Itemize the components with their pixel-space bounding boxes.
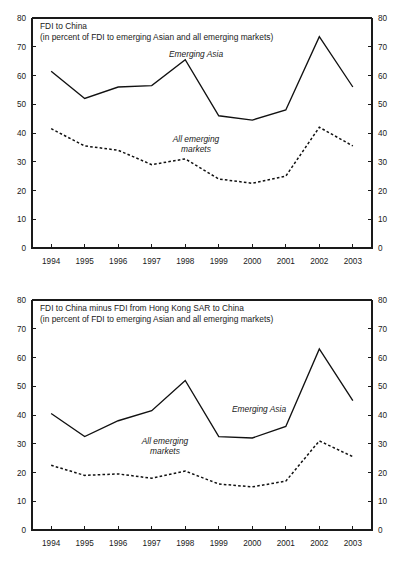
x-tick-label: 1995 bbox=[76, 539, 95, 548]
y-tick-label-right: 70 bbox=[378, 43, 388, 52]
y-axis-left-ticks-top bbox=[32, 47, 36, 220]
series-annotation-all-emerging-markets-top-line2: markets bbox=[181, 144, 212, 154]
chart-title-bottom: FDI to China minus FDI from Hong Kong SA… bbox=[40, 303, 244, 313]
y-tick-label-right: 10 bbox=[378, 497, 388, 506]
x-tick-label: 1994 bbox=[42, 539, 61, 548]
y-tick-label-left: 0 bbox=[21, 526, 26, 535]
x-tick-label: 1996 bbox=[109, 539, 128, 548]
x-tick-label: 1998 bbox=[176, 539, 195, 548]
y-axis-right-ticks-bottom bbox=[368, 329, 372, 502]
x-tick-label: 1999 bbox=[210, 539, 229, 548]
x-tick-label: 1998 bbox=[176, 257, 195, 266]
series-line-emerging-asia-bottom bbox=[51, 349, 353, 438]
x-tick-label: 2001 bbox=[277, 539, 296, 548]
y-tick-label-left: 0 bbox=[21, 244, 26, 253]
chart-panel-fdi-to-china-minus-hk: 01020304050607080 01020304050607080 1994… bbox=[0, 284, 407, 568]
x-axis-ticks-bottom bbox=[51, 526, 353, 530]
x-tick-label: 2000 bbox=[243, 539, 262, 548]
y-tick-label-left: 50 bbox=[17, 100, 27, 109]
x-tick-label: 1997 bbox=[143, 539, 162, 548]
y-tick-label-left: 20 bbox=[17, 469, 27, 478]
y-axis-left-labels-top: 01020304050607080 bbox=[17, 14, 27, 253]
y-tick-label-left: 80 bbox=[17, 296, 27, 305]
series-line-all-emerging-markets-bottom bbox=[51, 441, 353, 487]
y-tick-label-right: 50 bbox=[378, 382, 388, 391]
y-tick-label-right: 70 bbox=[378, 325, 388, 334]
y-tick-label-left: 40 bbox=[17, 129, 27, 138]
plot-frame-bottom bbox=[32, 300, 372, 530]
series-annotation-all-emerging-markets-top-line1: All emerging bbox=[172, 134, 220, 144]
y-tick-label-right: 40 bbox=[378, 129, 388, 138]
x-tick-label: 1994 bbox=[42, 257, 61, 266]
y-tick-label-left: 10 bbox=[17, 497, 27, 506]
y-tick-label-left: 80 bbox=[17, 14, 27, 23]
y-tick-label-right: 20 bbox=[378, 469, 388, 478]
y-axis-left-ticks-bottom bbox=[32, 329, 36, 502]
y-axis-right-labels-bottom: 01020304050607080 bbox=[378, 296, 388, 535]
y-tick-label-left: 10 bbox=[17, 215, 27, 224]
y-tick-label-right: 20 bbox=[378, 187, 388, 196]
x-axis-labels-bottom: 1994199519961997199819992000200120022003 bbox=[42, 539, 362, 548]
y-tick-label-left: 60 bbox=[17, 72, 27, 81]
chart-subtitle-top: (in percent of FDI to emerging Asian and… bbox=[40, 32, 273, 42]
x-tick-label: 2002 bbox=[310, 257, 329, 266]
y-tick-label-right: 0 bbox=[378, 244, 383, 253]
y-tick-label-right: 40 bbox=[378, 411, 388, 420]
chart-title-top: FDI to China bbox=[40, 21, 87, 31]
y-tick-label-left: 50 bbox=[17, 382, 27, 391]
y-tick-label-left: 60 bbox=[17, 354, 27, 363]
x-tick-label: 2002 bbox=[310, 539, 329, 548]
x-tick-label: 2000 bbox=[243, 257, 262, 266]
x-tick-label: 1995 bbox=[76, 257, 95, 266]
x-tick-label: 1999 bbox=[210, 257, 229, 266]
y-tick-label-left: 40 bbox=[17, 411, 27, 420]
axis-frame-bottom bbox=[32, 300, 372, 530]
x-tick-label: 2001 bbox=[277, 257, 296, 266]
y-tick-label-right: 80 bbox=[378, 14, 388, 23]
x-tick-label: 1996 bbox=[109, 257, 128, 266]
chart-panel-fdi-to-china: 01020304050607080 01020304050607080 1994… bbox=[0, 0, 407, 284]
series-annotation-all-emerging-markets-bottom-line1: All emerging bbox=[141, 436, 189, 446]
y-axis-right-labels-top: 01020304050607080 bbox=[378, 14, 388, 253]
series-annotation-all-emerging-markets-bottom-line2: markets bbox=[150, 446, 181, 456]
y-tick-label-right: 50 bbox=[378, 100, 388, 109]
y-tick-label-right: 60 bbox=[378, 72, 388, 81]
y-tick-label-left: 30 bbox=[17, 158, 27, 167]
x-axis-labels-top: 1994199519961997199819992000200120022003 bbox=[42, 257, 362, 266]
y-axis-left-labels-bottom: 01020304050607080 bbox=[17, 296, 27, 535]
y-tick-label-right: 30 bbox=[378, 158, 388, 167]
figure-container: 01020304050607080 01020304050607080 1994… bbox=[0, 0, 407, 568]
y-tick-label-right: 60 bbox=[378, 354, 388, 363]
y-tick-label-right: 10 bbox=[378, 215, 388, 224]
x-axis-ticks-top bbox=[51, 244, 353, 248]
y-tick-label-left: 70 bbox=[17, 325, 27, 334]
y-tick-label-right: 0 bbox=[378, 526, 383, 535]
y-tick-label-right: 30 bbox=[378, 440, 388, 449]
chart-subtitle-bottom: (in percent of FDI to emerging Asian and… bbox=[40, 314, 273, 324]
chart-svg-top: 01020304050607080 01020304050607080 1994… bbox=[0, 0, 407, 284]
x-tick-label: 2003 bbox=[344, 539, 363, 548]
y-tick-label-left: 20 bbox=[17, 187, 27, 196]
chart-svg-bottom: 01020304050607080 01020304050607080 1994… bbox=[0, 284, 407, 568]
y-tick-label-left: 30 bbox=[17, 440, 27, 449]
y-tick-label-right: 80 bbox=[378, 296, 388, 305]
y-tick-label-left: 70 bbox=[17, 43, 27, 52]
x-tick-label: 1997 bbox=[143, 257, 162, 266]
y-axis-right-ticks-top bbox=[368, 47, 372, 220]
series-annotation-emerging-asia-top: Emerging Asia bbox=[169, 49, 223, 59]
x-tick-label: 2003 bbox=[344, 257, 363, 266]
series-annotation-emerging-asia-bottom: Emerging Asia bbox=[232, 404, 286, 414]
